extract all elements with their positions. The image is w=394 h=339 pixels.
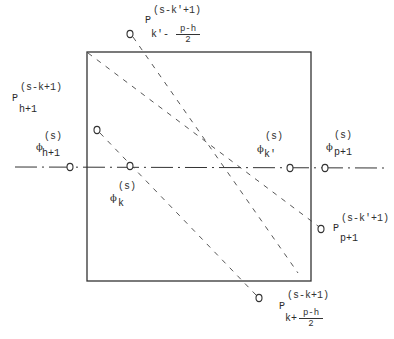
dashed-diagonal-1 [100, 133, 256, 295]
label-sub: h+1 [19, 105, 37, 115]
point-phi-kprime [287, 164, 293, 171]
label-sup: (s-k+1) [287, 290, 329, 301]
point-phi-k [127, 162, 133, 169]
frac-num: p-h [176, 25, 200, 35]
label-sup: (s) [118, 181, 136, 192]
frac-den: 2 [176, 36, 200, 45]
label-sup: (s-k'+1) [153, 5, 201, 16]
label-sup: (s) [265, 131, 283, 142]
label-base: P [279, 302, 285, 312]
label-base: ϕ [257, 144, 264, 154]
label-base: P [333, 224, 339, 234]
point-p-bottom [256, 294, 262, 301]
label-base: P [145, 16, 151, 26]
label-sub: k+ [285, 314, 297, 324]
label-sup: (s) [44, 131, 62, 142]
point-phi-p1 [322, 164, 328, 171]
point-p-h1 [94, 126, 100, 133]
frac-den: 2 [299, 320, 323, 329]
label-base: P [12, 94, 18, 104]
label-sup: (s) [334, 130, 352, 141]
label-sub: k'- [151, 30, 169, 40]
label-sub: k' [264, 150, 276, 160]
label-sub: p+1 [340, 234, 358, 244]
frac-num: p-h [299, 309, 323, 319]
label-base: ϕ [326, 142, 333, 152]
diagram-canvas [0, 0, 394, 339]
square-box [87, 52, 311, 281]
label-base: ϕ [110, 193, 117, 203]
label-sub: h+1 [42, 149, 60, 159]
label-sub: k [118, 199, 124, 209]
point-phi-h1 [67, 163, 73, 170]
point-p-top [127, 30, 133, 37]
point-p-p1 [318, 225, 324, 232]
label-sup: (s-k+1) [20, 82, 62, 93]
label-sup: (s-k'+1) [341, 213, 389, 224]
label-sub: p+1 [334, 148, 352, 158]
